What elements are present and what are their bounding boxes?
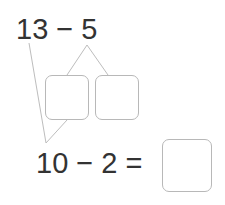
- connector-5-to-box1: [67, 45, 87, 75]
- answer-box[interactable]: [162, 139, 212, 192]
- top-expression: 13 − 5: [16, 15, 97, 44]
- split-box-1[interactable]: [45, 75, 89, 120]
- split-box-2[interactable]: [95, 75, 139, 120]
- connector-5-to-box2: [87, 45, 108, 75]
- connector-13-to-10: [29, 43, 46, 143]
- bottom-expression: 10 − 2 =: [36, 149, 142, 178]
- connector-box1-to-10: [46, 120, 67, 143]
